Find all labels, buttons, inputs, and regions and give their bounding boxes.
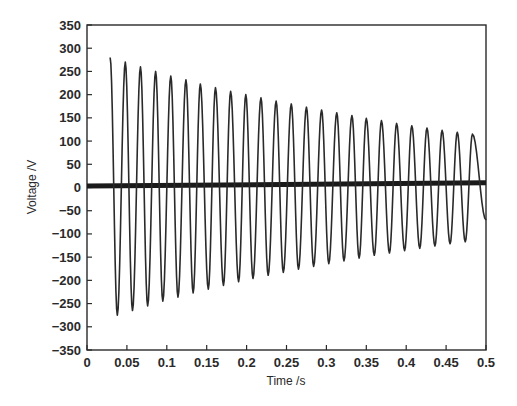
x-tick-label: 0.35 bbox=[354, 355, 379, 370]
y-tick-label: −300 bbox=[52, 319, 81, 334]
baseline-trace bbox=[87, 183, 486, 186]
y-tick-label: 200 bbox=[59, 87, 81, 102]
x-tick-label: 0.5 bbox=[477, 355, 495, 370]
y-tick-label: −50 bbox=[59, 203, 81, 218]
x-axis-title: Time /s bbox=[267, 374, 306, 388]
y-tick-label: −350 bbox=[52, 343, 81, 358]
y-tick-label: 50 bbox=[67, 157, 81, 172]
y-tick-label: 300 bbox=[59, 41, 81, 56]
x-tick-label: 0.05 bbox=[114, 355, 139, 370]
y-tick-label: −150 bbox=[52, 250, 81, 265]
y-tick-label: −200 bbox=[52, 273, 81, 288]
y-tick-label: −100 bbox=[52, 226, 81, 241]
x-tick-label: 0 bbox=[83, 355, 90, 370]
x-axis-ticks: 00.050.10.150.20.250.30.350.40.450.5 bbox=[83, 345, 495, 370]
x-tick-label: 0.3 bbox=[317, 355, 335, 370]
y-tick-label: 100 bbox=[59, 134, 81, 149]
y-tick-label: 150 bbox=[59, 110, 81, 125]
y-tick-label: 250 bbox=[59, 64, 81, 79]
y-axis-ticks: 350300250200150100500−50−100−150−200−250… bbox=[52, 18, 92, 358]
x-tick-label: 0.15 bbox=[194, 355, 219, 370]
x-tick-label: 0.4 bbox=[397, 355, 416, 370]
voltage-time-chart: 350300250200150100500−50−100−150−200−250… bbox=[0, 0, 517, 406]
x-tick-label: 0.2 bbox=[238, 355, 256, 370]
x-tick-label: 0.45 bbox=[433, 355, 458, 370]
x-tick-label: 0.1 bbox=[158, 355, 176, 370]
y-axis-title: Voltage /V bbox=[25, 160, 39, 215]
y-tick-label: 350 bbox=[59, 18, 81, 33]
x-tick-label: 0.25 bbox=[274, 355, 299, 370]
y-tick-label: 0 bbox=[74, 180, 81, 195]
y-tick-label: −250 bbox=[52, 296, 81, 311]
